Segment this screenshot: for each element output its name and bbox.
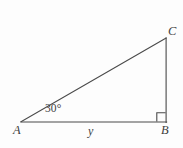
triangle-side-ac (21, 38, 166, 122)
vertex-label-a: A (13, 124, 21, 137)
vertex-label-c: C (168, 25, 176, 38)
angle-measure-label-a: 30° (45, 103, 61, 115)
vertex-label-b: B (161, 124, 169, 137)
right-angle-marker-icon (157, 113, 166, 122)
side-length-label-y: y (88, 125, 93, 137)
geometry-figure: A B C 30° y (0, 0, 183, 148)
